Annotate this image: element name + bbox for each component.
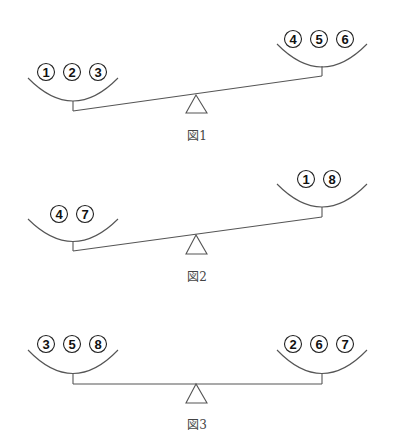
svg-text:5: 5 (315, 32, 322, 47)
svg-text:3: 3 (42, 337, 49, 352)
figure-2-balance: 4 7 1 8 (28, 171, 367, 255)
ball: 4 (51, 206, 68, 223)
ball: 5 (311, 31, 328, 48)
svg-text:2: 2 (289, 337, 296, 352)
left-pan (28, 350, 118, 374)
ball: 5 (64, 336, 81, 353)
ball: 3 (38, 336, 55, 353)
svg-text:1: 1 (302, 172, 309, 187)
ball: 2 (64, 64, 81, 81)
figure-1-balance: 1 2 3 4 5 6 (28, 31, 367, 114)
beam (73, 76, 322, 111)
fulcrum-triangle-icon (186, 95, 207, 113)
svg-text:1: 1 (42, 65, 49, 80)
svg-text:7: 7 (341, 337, 348, 352)
ball: 8 (324, 171, 341, 188)
balance-diagrams: 1 2 3 4 5 6 4 7 1 8 3 5 8 2 6 7 (0, 0, 395, 447)
svg-text:2: 2 (68, 65, 75, 80)
ball: 2 (285, 336, 302, 353)
ball: 1 (38, 64, 55, 81)
svg-text:7: 7 (81, 207, 88, 222)
left-pan (28, 219, 118, 242)
figure-1-caption: 図1 (187, 126, 207, 143)
ball: 6 (337, 31, 354, 48)
figure-3-balance: 3 5 8 2 6 7 (28, 336, 367, 404)
svg-text:8: 8 (328, 172, 335, 187)
beam (73, 217, 322, 251)
figure-2-caption: 図2 (187, 267, 207, 284)
svg-text:6: 6 (341, 32, 348, 47)
svg-text:4: 4 (55, 207, 63, 222)
ball: 4 (285, 31, 302, 48)
ball: 1 (298, 171, 315, 188)
ball: 7 (77, 206, 94, 223)
svg-text:8: 8 (94, 337, 101, 352)
ball: 6 (311, 336, 328, 353)
svg-text:6: 6 (315, 337, 322, 352)
ball: 8 (90, 336, 107, 353)
right-pan (277, 350, 367, 374)
svg-text:3: 3 (94, 65, 101, 80)
svg-text:5: 5 (68, 337, 75, 352)
fulcrum-triangle-icon (186, 235, 207, 254)
figure-3-caption: 図3 (187, 415, 207, 432)
right-pan (277, 184, 367, 207)
fulcrum-triangle-icon (186, 384, 207, 403)
ball: 3 (90, 64, 107, 81)
left-pan (28, 78, 118, 101)
ball: 7 (337, 336, 354, 353)
svg-text:4: 4 (289, 32, 297, 47)
